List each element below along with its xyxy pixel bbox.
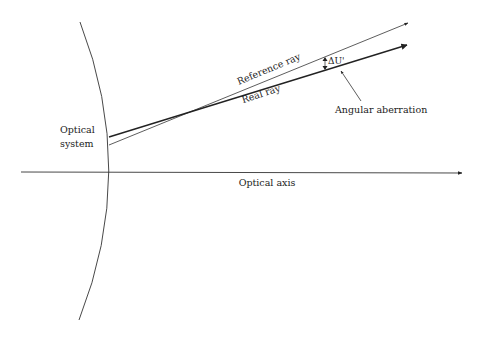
optical-axis-line <box>21 172 462 173</box>
optical-system-label-line2: system <box>60 138 94 149</box>
reference-ray-line <box>109 23 408 145</box>
angular-aberration-leader <box>341 71 361 101</box>
optical-system-label-line1: Optical <box>60 124 95 135</box>
angular-aberration-label: Angular aberration <box>334 104 427 115</box>
optical-axis-label: Optical axis <box>239 177 296 188</box>
delta-u-label: ΔU' <box>328 56 345 66</box>
real-ray-label: Real ray <box>240 82 282 105</box>
optical-surface-arc <box>79 22 109 320</box>
reference-ray-label: Reference ray <box>235 50 302 86</box>
optics-diagram: Optical system Optical axis Reference ra… <box>0 0 479 337</box>
